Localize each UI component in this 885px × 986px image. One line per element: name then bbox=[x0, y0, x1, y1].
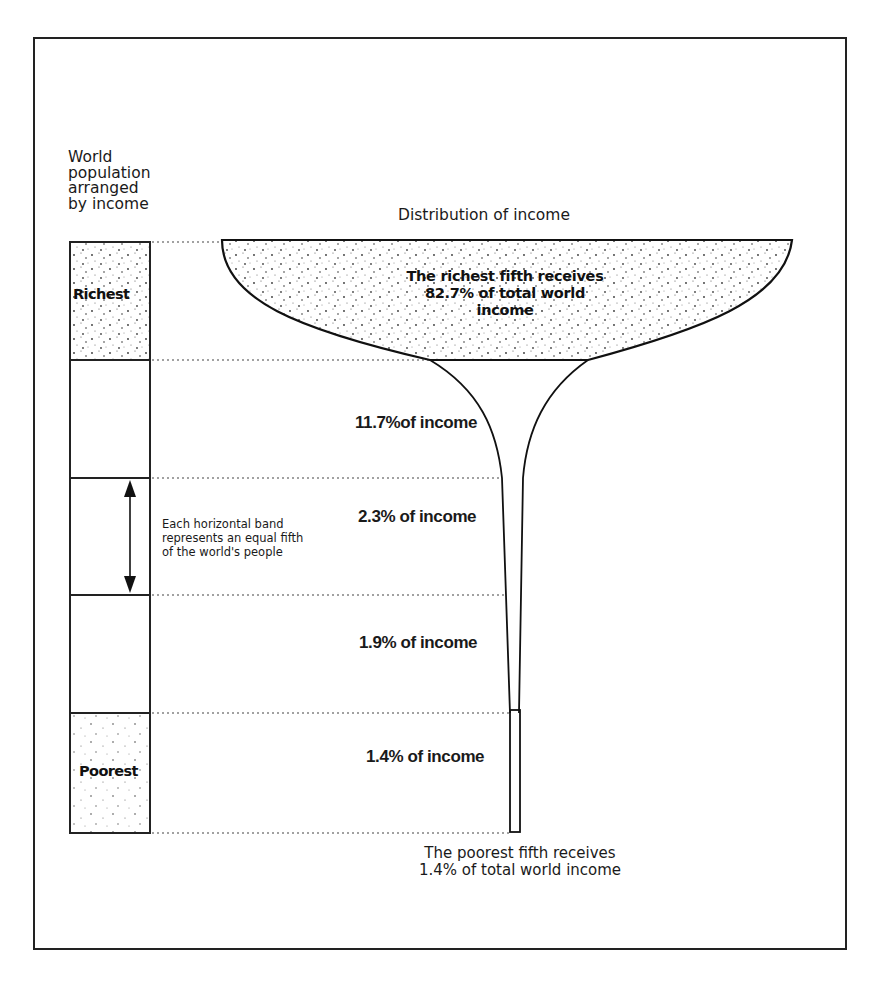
population-column bbox=[70, 242, 150, 833]
y-axis-label: World population arranged by income bbox=[68, 150, 150, 212]
double-arrow-icon bbox=[124, 480, 136, 593]
richest-label: Richest bbox=[73, 286, 129, 302]
band-explanation-note: Each horizontal band represents an equal… bbox=[162, 517, 303, 559]
poorest-share-note: The poorest fifth receives 1.4% of total… bbox=[400, 845, 640, 879]
band-label-poorest-fifth: 1.4% of income bbox=[366, 747, 484, 767]
glass-stem-right bbox=[519, 360, 588, 713]
poorest-bar bbox=[510, 710, 520, 832]
poorest-label: Poorest bbox=[79, 763, 138, 779]
champagne-glass-chart bbox=[0, 0, 885, 986]
band-label-third-fifth: 2.3% of income bbox=[358, 507, 476, 527]
band-label-second-fifth: 11.7%of income bbox=[355, 413, 477, 433]
band-label-fourth-fifth: 1.9% of income bbox=[359, 633, 477, 653]
chart-title: Distribution of income bbox=[398, 206, 570, 224]
richest-share-label: The richest fifth receives 82.7% of tota… bbox=[370, 268, 640, 319]
